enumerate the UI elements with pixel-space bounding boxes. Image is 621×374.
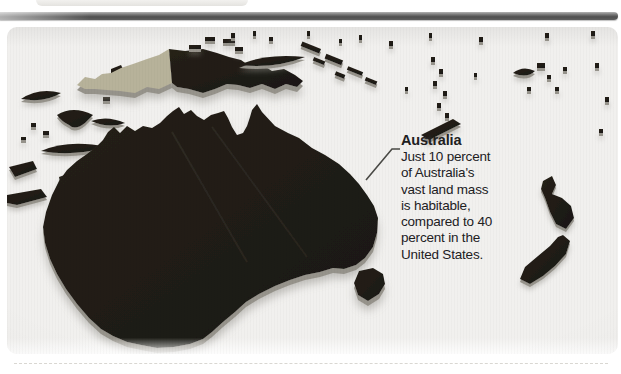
annotation-line: is habitable, xyxy=(401,198,521,214)
map-panel xyxy=(7,27,618,354)
fiji xyxy=(513,63,567,91)
australia-landmass xyxy=(43,104,378,348)
annotation-line: United States. xyxy=(401,247,521,263)
oceania-3d-map xyxy=(7,27,618,354)
card-edge-fragment xyxy=(36,0,248,6)
vanuatu xyxy=(431,57,449,118)
annotation-line: compared to 40 xyxy=(401,214,521,230)
australia-annotation: Australia Just 10 percent of Australia's… xyxy=(401,131,521,263)
annotation-leader-line xyxy=(366,149,400,180)
annotation-title: Australia xyxy=(401,131,521,149)
new-guinea xyxy=(77,49,303,93)
bottom-dashed-rule xyxy=(14,363,608,364)
new-guinea-highlands xyxy=(169,49,303,93)
annotation-line: Just 10 percent xyxy=(401,149,521,165)
nz-north-island xyxy=(541,176,574,229)
annotation-line: vast land mass xyxy=(401,182,521,198)
new-guinea-lowland xyxy=(77,49,172,93)
top-divider-rule xyxy=(0,12,618,20)
new-zealand xyxy=(520,176,574,284)
infographic-page: Australia Just 10 percent of Australia's… xyxy=(0,0,621,374)
solomon-islands xyxy=(301,41,378,85)
tasmania-island xyxy=(354,268,385,301)
annotation-line: percent in the xyxy=(401,230,521,246)
annotation-line: of Australia's xyxy=(401,165,521,181)
nz-south-island xyxy=(520,235,570,284)
rule-highlight xyxy=(0,12,90,20)
australia xyxy=(43,104,385,348)
